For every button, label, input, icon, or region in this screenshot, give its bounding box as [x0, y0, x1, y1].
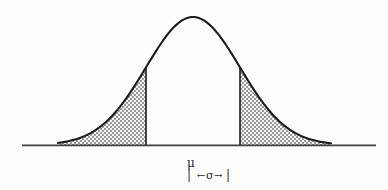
bell-curve-outline [58, 17, 331, 143]
normal-distribution-figure: μ | ← σ → | [0, 0, 388, 190]
normal-curve-diagram [0, 0, 388, 190]
left-shaded-region [58, 17, 331, 146]
right-shaded-region [58, 17, 331, 146]
